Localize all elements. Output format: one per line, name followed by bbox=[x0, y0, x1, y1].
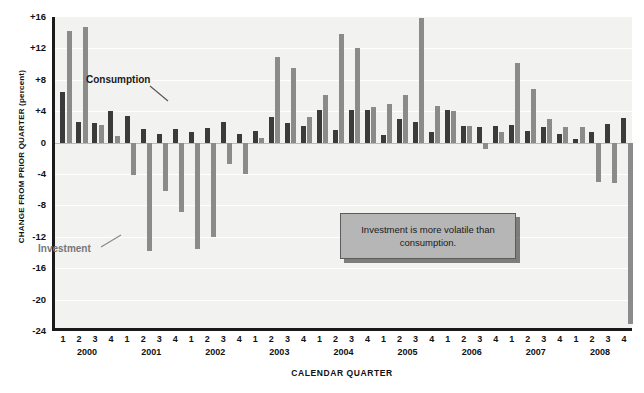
x-tick-quarter: 1 bbox=[569, 334, 583, 344]
bar-consumption bbox=[205, 128, 210, 142]
x-tick-quarter: 4 bbox=[617, 334, 631, 344]
bar-investment bbox=[483, 143, 488, 149]
x-tick-quarter: 3 bbox=[409, 334, 423, 344]
x-tick-quarter: 1 bbox=[312, 334, 326, 344]
x-tick-quarter: 1 bbox=[56, 334, 70, 344]
x-tick-quarter: 2 bbox=[585, 334, 599, 344]
x-tick-quarter: 3 bbox=[345, 334, 359, 344]
gridline bbox=[55, 205, 632, 206]
bar-investment bbox=[67, 31, 72, 142]
zero-line bbox=[55, 143, 632, 144]
bar-consumption bbox=[141, 129, 146, 142]
bar-consumption bbox=[461, 126, 466, 142]
bar-consumption bbox=[333, 130, 338, 143]
bar-investment bbox=[99, 125, 104, 142]
y-tick-label: +4 bbox=[6, 106, 46, 116]
bar-investment bbox=[115, 136, 120, 142]
bar-consumption bbox=[605, 124, 610, 143]
bar-consumption bbox=[621, 118, 626, 142]
bar-investment bbox=[563, 127, 568, 143]
bar-investment bbox=[596, 143, 601, 182]
y-tick-label: +8 bbox=[6, 75, 46, 85]
y-tick-label: +12 bbox=[6, 43, 46, 53]
bar-consumption bbox=[125, 116, 130, 143]
bar-consumption bbox=[477, 127, 482, 143]
bar-investment bbox=[179, 143, 184, 213]
chart-root: CHANGE FROM PRIOR QUARTER (percent) +16+… bbox=[0, 0, 644, 393]
bar-consumption bbox=[108, 111, 113, 142]
x-tick-quarter: 2 bbox=[200, 334, 214, 344]
x-tick-quarter: 4 bbox=[553, 334, 567, 344]
x-tick-quarter: 3 bbox=[216, 334, 230, 344]
x-tick-quarter: 1 bbox=[505, 334, 519, 344]
x-axis-title: CALENDAR QUARTER bbox=[52, 368, 632, 378]
bar-consumption bbox=[541, 127, 546, 143]
bar-consumption bbox=[445, 110, 450, 143]
x-tick-year: 2007 bbox=[516, 347, 556, 357]
bar-investment bbox=[147, 143, 152, 251]
x-tick-quarter: 3 bbox=[537, 334, 551, 344]
x-tick-quarter: 1 bbox=[120, 334, 134, 344]
series-label-consumption: Consumption bbox=[86, 74, 150, 85]
bar-consumption bbox=[589, 132, 594, 142]
plot-area bbox=[52, 17, 632, 331]
x-tick-quarter: 3 bbox=[280, 334, 294, 344]
gridline bbox=[55, 300, 632, 301]
bar-consumption bbox=[381, 135, 386, 143]
x-tick-quarter: 2 bbox=[393, 334, 407, 344]
bar-investment bbox=[451, 111, 456, 142]
bar-consumption bbox=[60, 92, 65, 143]
x-tick-quarter: 1 bbox=[184, 334, 198, 344]
bar-consumption bbox=[493, 126, 498, 142]
x-tick-year: 2006 bbox=[452, 347, 492, 357]
bar-consumption bbox=[269, 117, 274, 142]
y-tick-label: -20 bbox=[6, 295, 46, 305]
bar-consumption bbox=[173, 129, 178, 142]
bar-investment bbox=[547, 119, 552, 143]
bar-consumption bbox=[397, 119, 402, 143]
x-tick-quarter: 1 bbox=[248, 334, 262, 344]
annotation-callout: Investment is more volatile than consump… bbox=[340, 213, 516, 259]
bar-consumption bbox=[237, 134, 242, 143]
bar-investment bbox=[195, 143, 200, 250]
gridline bbox=[55, 174, 632, 175]
bar-investment bbox=[227, 143, 232, 164]
x-tick-quarter: 2 bbox=[328, 334, 342, 344]
bar-investment bbox=[371, 107, 376, 142]
bar-investment bbox=[323, 95, 328, 143]
x-tick-year: 2008 bbox=[580, 347, 620, 357]
bar-consumption bbox=[253, 131, 258, 143]
bar-investment bbox=[628, 143, 633, 324]
bar-consumption bbox=[221, 122, 226, 142]
bar-investment bbox=[467, 126, 472, 142]
x-tick-quarter: 4 bbox=[232, 334, 246, 344]
bar-investment bbox=[387, 104, 392, 142]
x-tick-quarter: 4 bbox=[168, 334, 182, 344]
y-tick-label: 0 bbox=[6, 138, 46, 148]
x-tick-quarter: 4 bbox=[296, 334, 310, 344]
x-tick-quarter: 4 bbox=[489, 334, 503, 344]
bar-consumption bbox=[429, 132, 434, 142]
bar-consumption bbox=[317, 110, 322, 143]
bar-investment bbox=[131, 143, 136, 175]
x-tick-year: 2002 bbox=[195, 347, 235, 357]
x-tick-quarter: 4 bbox=[104, 334, 118, 344]
x-tick-year: 2004 bbox=[324, 347, 364, 357]
x-tick-year: 2003 bbox=[259, 347, 299, 357]
x-tick-quarter: 2 bbox=[264, 334, 278, 344]
x-tick-quarter: 3 bbox=[473, 334, 487, 344]
bar-consumption bbox=[349, 110, 354, 142]
x-tick-year: 2005 bbox=[388, 347, 428, 357]
x-tick-quarter: 1 bbox=[377, 334, 391, 344]
x-tick-quarter: 4 bbox=[425, 334, 439, 344]
bar-investment bbox=[339, 34, 344, 142]
gridline bbox=[55, 268, 632, 269]
y-tick-label: -24 bbox=[6, 326, 46, 336]
bar-consumption bbox=[525, 131, 530, 143]
bar-consumption bbox=[157, 134, 162, 143]
bar-investment bbox=[580, 127, 585, 143]
bar-consumption bbox=[413, 122, 418, 142]
y-tick-label: +16 bbox=[6, 12, 46, 22]
bar-consumption bbox=[189, 132, 194, 142]
series-label-investment: Investment bbox=[38, 243, 91, 254]
